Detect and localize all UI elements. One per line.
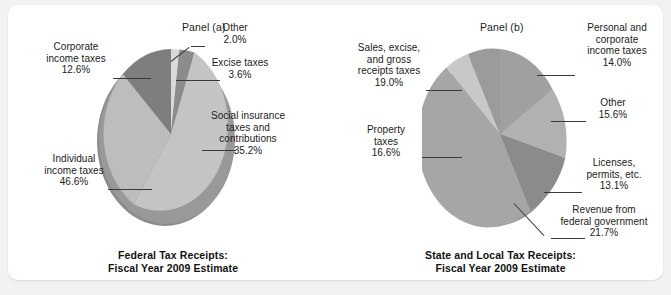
leader-a-other-h — [191, 46, 205, 47]
label-b-other: Other 15.6% — [580, 97, 646, 120]
label-a-corporate: Corporate income taxes 12.6% — [30, 41, 122, 76]
label-b-sales-excise: Sales, excise, and gross receipts taxes … — [343, 42, 435, 88]
label-b-licenses: Licenses, permits, etc. 13.1% — [574, 157, 654, 192]
figure-root: Panel (a) — [0, 0, 671, 295]
leader-a-corporate — [113, 78, 151, 79]
panel-a: Panel (a) — [8, 5, 338, 280]
label-a-other: Other 2.0% — [204, 22, 266, 45]
leader-b-personal-corporate — [537, 75, 575, 76]
leader-a-individual — [108, 189, 152, 190]
label-b-personal-corporate: Personal and corporate income taxes 14.0… — [570, 22, 664, 68]
leader-b-sales-excise — [426, 90, 462, 91]
leader-b-other — [551, 121, 586, 122]
leader-b-licenses — [544, 192, 582, 193]
label-a-excise: Excise taxes 3.6% — [200, 57, 280, 80]
figure-card: Panel (a) — [8, 5, 663, 280]
label-a-individual: Individual income taxes 46.6% — [28, 153, 120, 188]
leader-b-property — [422, 157, 462, 158]
leader-b-federal-revenue-h — [551, 238, 585, 239]
leader-a-excise — [176, 80, 220, 81]
panel-b: Panel (b) — [338, 5, 663, 280]
label-b-property: Property taxes 16.6% — [342, 124, 430, 159]
panel-a-title: Federal Tax Receipts: Fiscal Year 2009 E… — [8, 249, 338, 275]
label-b-federal-revenue: Revenue from federal government 21.7% — [550, 204, 658, 239]
panel-b-tag: Panel (b) — [480, 21, 524, 33]
leader-a-social-insurance — [202, 150, 236, 151]
panel-b-title: State and Local Tax Receipts: Fiscal Yea… — [338, 249, 663, 275]
